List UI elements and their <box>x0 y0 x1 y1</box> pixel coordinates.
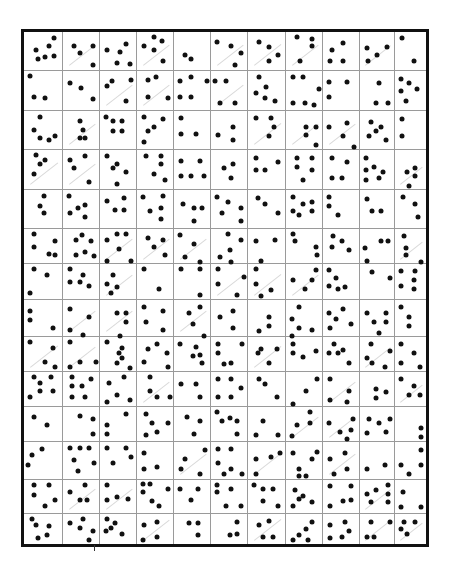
grid-cell <box>286 480 323 514</box>
dot <box>326 283 331 288</box>
dot <box>114 232 119 237</box>
dot <box>47 524 52 529</box>
dot <box>31 483 36 488</box>
grid-cell <box>360 407 395 442</box>
dot <box>387 519 392 524</box>
grid-cell <box>63 407 100 442</box>
grid-cell <box>395 111 426 150</box>
dot <box>402 519 407 524</box>
grid-cell <box>248 264 286 300</box>
dot <box>350 417 355 422</box>
dot <box>345 80 350 85</box>
dot <box>120 128 125 133</box>
dot <box>365 466 370 471</box>
dot <box>231 325 236 330</box>
dot <box>406 314 411 319</box>
dot <box>147 375 152 380</box>
dot <box>31 127 36 132</box>
dot <box>339 534 344 539</box>
grid-cell <box>174 71 211 111</box>
dot <box>81 127 86 132</box>
dot <box>70 394 75 399</box>
dot <box>160 237 165 242</box>
dot <box>289 316 294 321</box>
dot <box>295 34 300 39</box>
dot <box>112 521 117 526</box>
dot <box>365 535 370 540</box>
dot <box>309 500 314 505</box>
dot <box>276 433 281 438</box>
grid-cell <box>63 71 100 111</box>
grid-cell <box>137 372 174 407</box>
dot <box>109 290 114 295</box>
dot <box>53 364 58 369</box>
dot <box>146 129 151 134</box>
dot <box>365 491 370 496</box>
dot <box>403 99 408 104</box>
dot <box>105 516 110 521</box>
dot <box>83 483 88 488</box>
dot <box>414 87 419 92</box>
dot <box>242 274 247 279</box>
dot <box>238 237 243 242</box>
dot <box>266 44 271 49</box>
dot <box>214 489 219 494</box>
dot <box>112 207 117 212</box>
dot <box>70 375 75 380</box>
dot <box>313 124 318 129</box>
dot <box>231 138 236 143</box>
dot <box>419 434 424 439</box>
dot <box>144 412 149 417</box>
dot <box>382 364 387 369</box>
dot <box>68 211 73 216</box>
dot <box>68 81 73 86</box>
grid-cell <box>137 264 174 300</box>
dot <box>43 55 48 60</box>
dot <box>81 272 86 277</box>
dot <box>291 209 296 214</box>
dot <box>223 503 228 508</box>
dot <box>196 521 201 526</box>
dot <box>343 519 348 524</box>
grid-cell <box>137 514 174 544</box>
dot <box>346 361 351 366</box>
dot <box>304 133 309 138</box>
dot <box>400 195 405 200</box>
dot <box>386 491 391 496</box>
dot <box>144 320 149 325</box>
dot <box>304 527 309 532</box>
dot <box>177 486 182 491</box>
grid-row <box>24 71 426 111</box>
dot <box>296 474 301 479</box>
dot <box>240 342 245 347</box>
dot <box>333 316 338 321</box>
dot <box>146 95 151 100</box>
grid-cell <box>211 372 248 407</box>
dot <box>214 410 219 415</box>
dot <box>75 205 80 210</box>
dot <box>214 195 219 200</box>
grid-cell <box>286 264 323 300</box>
grid-cell <box>211 407 248 442</box>
dot <box>37 203 42 208</box>
dot <box>122 207 127 212</box>
grid-cell <box>63 32 100 71</box>
dot <box>127 398 132 403</box>
grid-cell <box>286 442 323 480</box>
dot <box>264 85 269 90</box>
dot <box>300 178 305 183</box>
dot <box>159 154 164 159</box>
dot <box>417 364 422 369</box>
dot <box>43 503 48 508</box>
pencil-stroke <box>400 522 423 540</box>
dot <box>315 377 320 382</box>
dot <box>309 199 314 204</box>
dot <box>259 294 264 299</box>
grid-cell <box>174 229 211 264</box>
dot <box>291 195 296 200</box>
dot <box>129 455 134 460</box>
dot <box>151 48 156 53</box>
dot <box>411 384 416 389</box>
dot <box>205 79 210 84</box>
dot <box>123 232 128 237</box>
